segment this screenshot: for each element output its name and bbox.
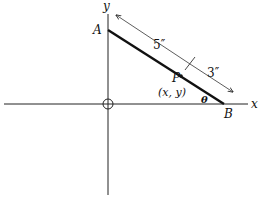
diagram-canvas: y x A B P (x, y) θ 5″ 3″ bbox=[0, 0, 259, 203]
x-axis-label: x bbox=[251, 97, 258, 111]
point-p-coords: (x, y) bbox=[158, 86, 186, 99]
dimension-tick bbox=[185, 57, 195, 70]
point-p-label: P bbox=[171, 71, 181, 85]
angle-theta-label: θ bbox=[201, 94, 208, 105]
point-b-label: B bbox=[223, 107, 233, 121]
length-label-5: 5″ bbox=[153, 38, 166, 52]
point-a-label: A bbox=[92, 23, 102, 37]
length-label-3: 3″ bbox=[207, 66, 220, 80]
y-axis-label: y bbox=[102, 0, 110, 13]
